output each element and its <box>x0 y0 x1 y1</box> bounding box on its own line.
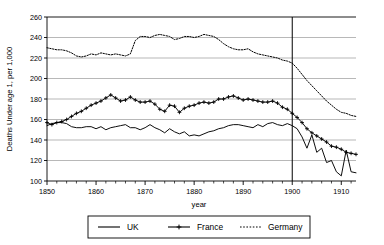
y-tick-label: 240 <box>30 33 42 42</box>
x-tick-label: 1870 <box>137 187 153 196</box>
x-tick-label: 1880 <box>186 187 202 196</box>
x-axis-ticks <box>47 181 341 185</box>
y-tick-label: 160 <box>30 115 42 124</box>
y-tick-label: 100 <box>30 177 42 186</box>
y-tick-label: 180 <box>30 95 42 104</box>
y-tick-label: 200 <box>30 74 42 83</box>
y-axis-tick-labels: 100120140160180200220240260 <box>30 13 42 186</box>
y-tick-label: 260 <box>30 13 42 22</box>
x-tick-label: 1860 <box>88 187 104 196</box>
y-tick-label: 220 <box>30 54 42 63</box>
x-axis-title: year <box>192 200 207 209</box>
x-tick-label: 1890 <box>235 187 251 196</box>
line-chart: 100120140160180200220240260 185018601870… <box>0 0 384 245</box>
chart-container: 100120140160180200220240260 185018601870… <box>0 0 384 245</box>
y-tick-label: 120 <box>30 156 42 165</box>
legend-label-france: France <box>197 222 223 232</box>
x-tick-label: 1910 <box>333 187 349 196</box>
y-axis-title: Deaths Under age 1, per 1,000 <box>5 47 14 151</box>
x-tick-label: 1900 <box>284 187 300 196</box>
x-axis-tick-labels: 1850186018701880189019001910 <box>39 187 349 196</box>
legend-label-uk: UK <box>127 222 139 232</box>
legend-label-germany: Germany <box>268 222 303 232</box>
y-tick-label: 140 <box>30 136 42 145</box>
x-tick-label: 1850 <box>39 187 55 196</box>
chart-legend: UKFranceGermany <box>88 216 310 238</box>
